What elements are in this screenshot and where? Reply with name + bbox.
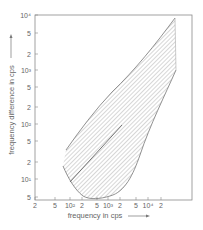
y-tick-label: 5 xyxy=(27,194,31,201)
x-tick-label: 5 xyxy=(53,202,57,209)
y-tick-label: 10¹ xyxy=(21,176,32,183)
y-tick-label: 5 xyxy=(27,138,31,145)
x-tick-label: 2 xyxy=(80,202,84,209)
y-arrowhead-icon xyxy=(10,34,13,38)
y-tick-label: 2 xyxy=(27,159,31,166)
y-tick-label: 10⁴ xyxy=(20,12,31,19)
x-tick-label: 5 xyxy=(134,202,138,209)
chart-svg: 10⁴5210³5210²5210¹5 2510²2510³2510⁴2 fre… xyxy=(0,0,203,230)
y-tick-label: 10³ xyxy=(21,67,32,74)
x-tick-label: 2 xyxy=(118,202,122,209)
y-tick-label: 5 xyxy=(27,30,31,37)
y-tick-label: 5 xyxy=(27,84,31,91)
x-tick-label: 10⁴ xyxy=(143,202,154,209)
x-tick-label: 10³ xyxy=(103,202,114,209)
y-tick-label: 2 xyxy=(27,104,31,111)
x-axis-title: frequency in cps xyxy=(68,211,123,220)
y-axis-title: frequency difference in cps xyxy=(7,65,16,155)
y-tick-label: 10² xyxy=(21,121,32,128)
x-tick-label: 5 xyxy=(95,202,99,209)
x-tick-label: 2 xyxy=(33,202,37,209)
x-tick-label: 2 xyxy=(159,202,163,209)
x-tick-label: 10² xyxy=(65,202,76,209)
y-tick-label: 2 xyxy=(27,51,31,58)
x-arrowhead-icon xyxy=(146,215,150,218)
